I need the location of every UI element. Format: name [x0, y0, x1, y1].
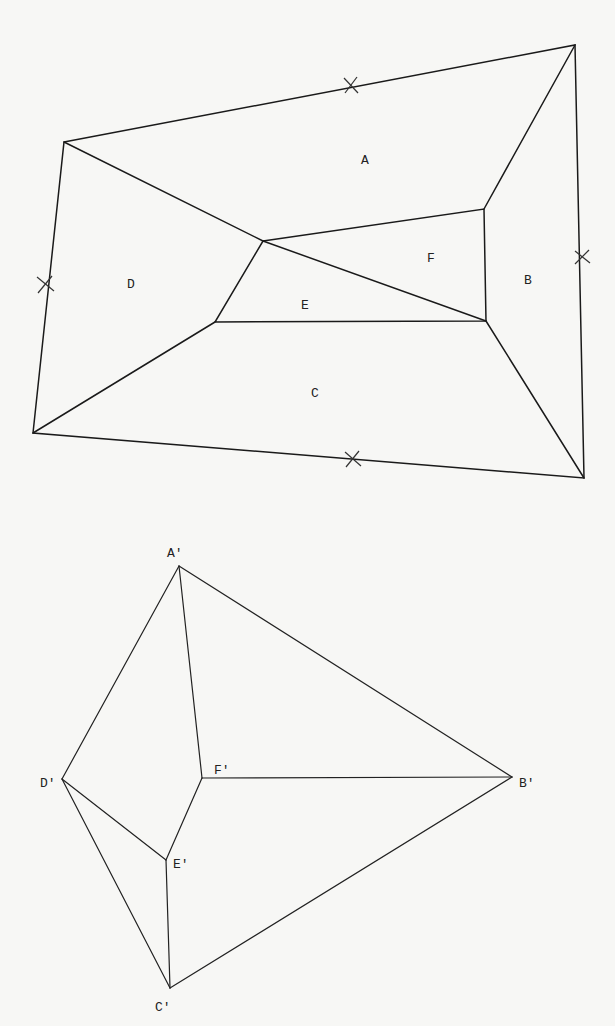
- e-f-divider: [263, 241, 486, 321]
- inner-quadrilateral: [215, 209, 486, 322]
- region-label-e: E: [301, 298, 309, 313]
- node-label-d-prime: D': [40, 776, 56, 791]
- region-label-d: D: [127, 277, 135, 292]
- node-label-c-prime: C': [155, 1000, 171, 1015]
- planar-map: A B C D E F: [33, 45, 590, 478]
- edge-d-e: [62, 779, 166, 860]
- spoke-bottom-right: [486, 321, 584, 478]
- spoke-bottom-left: [33, 322, 215, 433]
- node-label-f-prime: F': [214, 763, 230, 778]
- node-label-e-prime: E': [173, 857, 189, 872]
- map-dual-graph-figure: A B C D E F A' B' C' D' E' F': [0, 0, 615, 1026]
- edge-a-b: [179, 566, 512, 777]
- region-label-b: B: [524, 273, 532, 288]
- edge-f-b: [202, 777, 512, 778]
- region-label-a: A: [361, 153, 369, 168]
- spoke-top-left: [64, 142, 263, 241]
- edge-d-c: [62, 779, 170, 988]
- dual-graph: A' B' C' D' E' F': [40, 546, 535, 1015]
- region-label-f: F: [427, 251, 435, 266]
- right-mark-icon: [575, 250, 590, 264]
- edge-a-d: [62, 566, 179, 779]
- edge-a-f: [179, 566, 202, 778]
- edge-e-c: [166, 860, 170, 988]
- top-mark-icon: [344, 77, 358, 93]
- outer-boundary: [33, 45, 584, 478]
- spoke-top-right: [484, 45, 575, 209]
- edge-c-b: [170, 777, 512, 988]
- diagram-canvas: A B C D E F A' B' C' D' E' F': [0, 0, 615, 1026]
- region-label-c: C: [311, 386, 319, 401]
- edge-f-e: [166, 778, 202, 860]
- node-label-a-prime: A': [167, 546, 183, 561]
- left-mark-icon: [37, 276, 54, 293]
- node-label-b-prime: B': [519, 776, 535, 791]
